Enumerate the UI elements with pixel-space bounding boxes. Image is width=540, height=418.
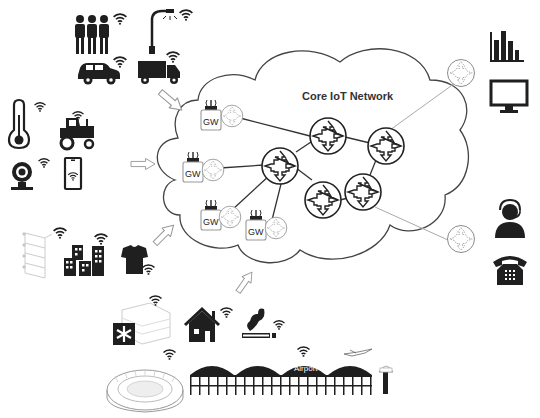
wifi-icon — [114, 14, 127, 25]
buildings-icon — [64, 245, 104, 276]
wifi-icon — [39, 159, 50, 168]
truck-icon — [138, 61, 180, 84]
wifi-icon — [35, 103, 46, 112]
hospital-icon — [113, 303, 170, 345]
smartphone-icon — [65, 158, 81, 189]
iot-diagram — [0, 0, 540, 418]
gateway-router-icon — [265, 217, 287, 239]
airport-label: Airport — [294, 364, 318, 373]
street-lamp-icon — [149, 9, 177, 54]
arrow-icon — [131, 158, 155, 169]
wifi-icon — [114, 57, 127, 68]
core-router-icon — [262, 148, 298, 184]
webcam-icon — [11, 162, 33, 190]
wifi-icon — [221, 308, 233, 318]
gateway-label: GW — [248, 227, 264, 237]
wifi-icon — [143, 265, 155, 275]
wifi-icon — [164, 350, 176, 360]
thermometer-icon — [9, 100, 29, 148]
monitor-icon — [491, 81, 527, 113]
wifi-icon — [95, 234, 108, 245]
telephone-icon — [493, 256, 527, 285]
network-title: Core IoT Network — [302, 90, 393, 102]
bar-chart-icon — [490, 31, 524, 62]
wifi-icon — [274, 321, 285, 330]
tractor-icon — [60, 118, 94, 149]
core-router-icon — [345, 174, 381, 210]
gateway-router-icon — [202, 159, 224, 181]
gateway-label: GW — [185, 169, 201, 179]
call-center-icon — [495, 200, 525, 238]
gateway-label: GW — [203, 117, 219, 127]
house-icon — [185, 309, 219, 342]
core-network-cloud — [157, 49, 468, 263]
edge-router-icon — [448, 226, 475, 253]
gateway-label: GW — [203, 217, 219, 227]
gateway-router-icon — [219, 206, 241, 228]
gateway-router-icon — [221, 105, 243, 127]
core-router-icon — [368, 128, 404, 164]
core-router-icon — [305, 182, 341, 218]
edge-router-icon — [448, 60, 475, 87]
airport-icon — [190, 349, 393, 395]
wifi-icon — [54, 228, 67, 239]
tshirt-icon — [121, 245, 148, 274]
arrow-icon — [151, 221, 178, 248]
arrow-icon — [234, 269, 257, 295]
stadium-icon — [107, 369, 183, 412]
wifi-icon — [167, 52, 180, 63]
core-router-icon — [310, 118, 346, 154]
car-icon — [78, 63, 120, 85]
smoke-icon — [242, 309, 276, 338]
people-icon — [75, 15, 109, 54]
wifi-icon — [298, 347, 310, 357]
wifi-icon — [180, 10, 193, 21]
shelves-icon — [23, 233, 52, 278]
